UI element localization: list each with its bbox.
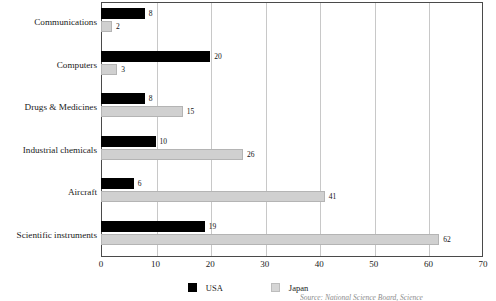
bar-row: 203 [101,45,483,88]
bar-row: 82 [101,2,483,45]
legend-label-usa: USA [206,283,223,293]
chart-container: CommunicationsComputersDrugs & Medicines… [0,0,496,301]
x-axis-ticks: 010203040506070 [0,259,496,273]
bar-value-label: 3 [121,64,125,75]
bar-japan[interactable] [101,149,243,160]
legend-item-japan[interactable]: Japan [271,283,308,293]
x-tick-label: 10 [151,259,160,269]
category-label: Scientific instruments [0,230,97,240]
category-label: Communications [0,17,97,27]
bar-value-label: 8 [149,93,153,104]
legend-label-japan: Japan [289,283,308,293]
category-label: Aircraft [0,187,97,197]
bar-value-label: 41 [329,191,337,202]
x-tick-label: 30 [260,259,269,269]
bar-japan[interactable] [101,64,117,75]
chart-legend: USA Japan [0,278,496,290]
legend-item-usa[interactable]: USA [188,283,223,293]
bar-rows: 8220381510266411962 [101,2,483,257]
bar-row: 641 [101,172,483,215]
category-label: Computers [0,60,97,70]
bar-value-label: 19 [209,221,217,232]
bar-row: 1962 [101,215,483,258]
legend-swatch-japan-icon [271,283,280,292]
bar-usa[interactable] [101,136,156,147]
bar-japan[interactable] [101,191,325,202]
x-tick-label: 70 [479,259,488,269]
bar-value-label: 26 [247,149,255,160]
x-tick-label: 50 [369,259,378,269]
x-tick-label: 60 [424,259,433,269]
bar-value-label: 15 [187,106,195,117]
bar-value-label: 2 [116,21,120,32]
category-label: Drugs & Medicines [0,102,97,112]
legend-swatch-usa-icon [188,283,197,292]
source-note: Source: National Science Board, Science [300,293,496,301]
x-tick-label: 20 [206,259,215,269]
bar-usa[interactable] [101,51,210,62]
bar-japan[interactable] [101,234,439,245]
bar-usa[interactable] [101,178,134,189]
category-label: Industrial chemicals [0,145,97,155]
bar-value-label: 10 [160,136,168,147]
bar-japan[interactable] [101,106,183,117]
bar-value-label: 8 [149,8,153,19]
bar-value-label: 20 [214,51,222,62]
category-axis-labels: CommunicationsComputersDrugs & Medicines… [0,2,97,257]
bar-value-label: 62 [443,234,451,245]
bar-japan[interactable] [101,21,112,32]
bar-row: 815 [101,87,483,130]
x-tick-label: 40 [315,259,324,269]
bar-usa[interactable] [101,221,205,232]
x-tick-label: 0 [99,259,104,269]
bar-value-label: 6 [138,178,142,189]
bar-usa[interactable] [101,8,145,19]
bar-usa[interactable] [101,93,145,104]
bar-row: 1026 [101,130,483,173]
